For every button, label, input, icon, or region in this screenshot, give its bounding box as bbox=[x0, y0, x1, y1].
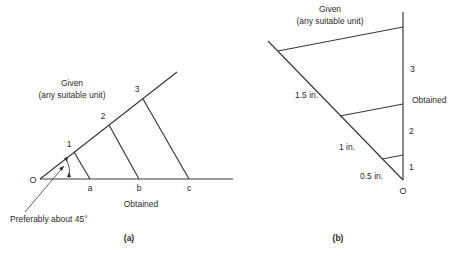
given-label-a: Given bbox=[61, 78, 83, 88]
angle-note: Preferably about 45° bbox=[10, 214, 88, 224]
origin-label-a: O bbox=[29, 175, 36, 185]
transversal-3c bbox=[143, 99, 189, 179]
vertical-point-3: 3 bbox=[410, 64, 415, 74]
slant-label-0-5in: 0.5 in. bbox=[360, 171, 383, 181]
leader-line bbox=[25, 166, 64, 212]
vertical-point-2: 2 bbox=[409, 126, 414, 136]
diagram-canvas: Given (any suitable unit) O 1 2 3 a b c … bbox=[0, 0, 467, 258]
arrowhead-down-icon bbox=[67, 172, 71, 177]
ray-point-2: 2 bbox=[101, 111, 106, 121]
slant-label-1-5in: 1.5 in. bbox=[295, 90, 318, 100]
caption-b: (b) bbox=[333, 233, 344, 243]
transversal-1a bbox=[74, 152, 90, 179]
figure-a: Given (any suitable unit) O 1 2 3 a b c … bbox=[10, 72, 233, 243]
leader-arrow-icon bbox=[59, 166, 64, 171]
transversal-low-b bbox=[382, 155, 403, 159]
ray-point-3: 3 bbox=[135, 84, 140, 94]
caption-a: (a) bbox=[124, 233, 135, 243]
given-sublabel-b: (any suitable unit) bbox=[296, 16, 363, 26]
transversal-2b bbox=[109, 125, 139, 179]
vertical-point-1: 1 bbox=[409, 162, 414, 172]
origin-label-b: O bbox=[399, 186, 406, 196]
ray-point-1: 1 bbox=[67, 139, 72, 149]
figure-b: Given (any suitable unit) 3 Obtained 2 1… bbox=[268, 4, 447, 243]
obtained-label-a: Obtained bbox=[124, 199, 159, 209]
given-sublabel-a: (any suitable unit) bbox=[38, 90, 105, 100]
transversal-mid-b bbox=[340, 104, 403, 116]
base-point-b: b bbox=[137, 183, 142, 193]
base-point-c: c bbox=[187, 183, 192, 193]
transversal-top-b bbox=[278, 27, 403, 51]
given-label-b: Given bbox=[319, 4, 341, 14]
obtained-label-b: Obtained bbox=[412, 95, 447, 105]
slant-label-1in: 1 in. bbox=[339, 142, 355, 152]
given-ray-a bbox=[40, 72, 177, 179]
base-point-a: a bbox=[88, 183, 93, 193]
